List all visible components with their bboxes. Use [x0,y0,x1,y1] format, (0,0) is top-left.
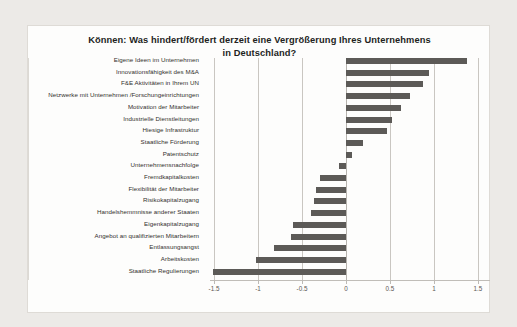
category-label: Unternehmensnachfolge [131,161,199,169]
bar [346,81,423,87]
bar [291,234,346,240]
bar [314,198,346,204]
bar [256,257,346,263]
category-label: F&E Aktivitäten in Ihrem UN [121,79,199,87]
bar [346,140,363,146]
tick-label: 1 [432,285,436,292]
tick-mark [214,280,215,284]
category-label: Industrielle Dienstleitungen [123,115,199,123]
plot-area: -1.5-1-0.500.511.5 Eigene Ideen im Unter… [28,26,491,314]
category-label: Eigene Ideen im Unternehmen [114,56,199,64]
bar [320,175,346,181]
category-label: Fremdkapitalkosten [144,173,199,181]
bar [311,210,346,216]
x-axis-line [210,280,490,281]
category-label: Flexibilität der Mitarbeiter [128,185,199,193]
gridline--1-5 [214,58,215,280]
category-label: Risikokapitalzugang [143,196,199,204]
tick-mark [390,280,391,284]
category-label: Eigenkapitalzugang [144,220,199,228]
bar [293,222,346,228]
tick-mark [434,280,435,284]
category-label: Hiesige Infrastruktur [143,126,199,134]
category-label: Arbeitskosten [161,255,199,263]
category-label: Staatliche Regulierungen [129,267,199,275]
tick-label: 0 [344,285,348,292]
gridline-1-5 [478,58,479,280]
bar [213,269,346,275]
category-label: Staatliche Förderung [141,138,199,146]
bar [274,245,346,251]
bar [346,58,467,64]
tick-label: -1 [255,285,261,292]
bar [346,117,392,123]
bar [346,70,429,76]
bar [339,163,346,169]
gridline-0-5 [390,58,391,280]
category-label: Handelshemmnisse anderer Staaten [97,208,199,216]
bar [346,93,410,99]
tick-label: 0.5 [386,285,395,292]
bar [346,152,352,158]
bar [346,128,387,134]
bar [346,105,401,111]
bar [316,187,346,193]
gridline-0 [346,58,347,280]
category-label: Netzwerke mit Unternehmen /Forschungeinr… [48,91,199,99]
chart-frame: Können: Was hindert/fördert derzeit eine… [27,25,490,313]
tick-mark [258,280,259,284]
tick-label: -0.5 [297,285,308,292]
category-label: Patentschutz [163,150,199,158]
tick-label: -1.5 [209,285,220,292]
gridline-1 [434,58,435,280]
tick-label: 1.5 [474,285,483,292]
tick-mark [346,280,347,284]
category-label: Innovationsfähigkeit des M&A [116,68,199,76]
tick-mark [302,280,303,284]
category-label: Entlassungsangst [149,243,199,251]
category-label: Motivation der Mitarbeiter [128,103,199,111]
category-label: Angebot an qualifizierten Mitarbeitern [95,232,199,240]
tick-mark [478,280,479,284]
gridline--1 [258,58,259,280]
plot-left-edge [28,58,29,280]
